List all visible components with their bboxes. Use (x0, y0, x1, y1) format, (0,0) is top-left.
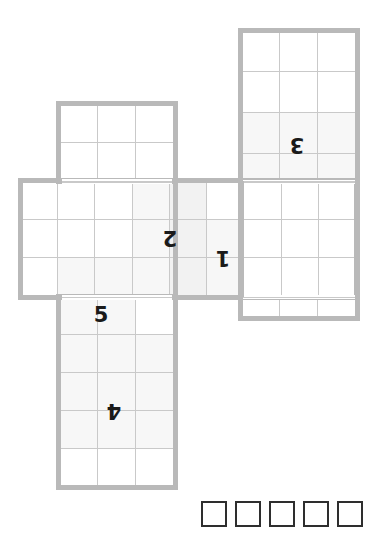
middle-band-panel-cells (21, 181, 356, 297)
grid-cell (318, 31, 357, 72)
answer-box-5[interactable] (337, 501, 363, 527)
label-3: 3 (284, 134, 310, 155)
grid-cell (21, 220, 58, 259)
grid-cell (136, 335, 175, 373)
grid-cell (280, 31, 319, 72)
grid-cell (98, 449, 137, 487)
grid-cell (21, 181, 58, 220)
grid-cell (319, 181, 356, 220)
grid-cell (58, 181, 95, 220)
answer-box-4[interactable] (303, 501, 329, 527)
label-1: 1 (210, 247, 236, 268)
grid-cell (318, 72, 357, 113)
grid-cell (136, 143, 175, 182)
grid-cell (318, 113, 357, 154)
grid-cell (136, 104, 175, 143)
grid-cell (59, 449, 98, 487)
grid-cell (241, 31, 280, 72)
grid-cell (241, 113, 280, 154)
grid-cell (98, 143, 137, 182)
grid-cell (319, 258, 356, 297)
grid-cell (21, 258, 58, 297)
grid-cell (319, 220, 356, 259)
right-panel-left-seam (238, 181, 244, 297)
middle-band-panel (21, 181, 356, 297)
grid-cell (282, 181, 319, 220)
puzzle-canvas: 1 2 3 4 5 (0, 0, 380, 553)
grid-cell (59, 373, 98, 411)
grid-cell (95, 258, 132, 297)
grid-cell (136, 411, 175, 449)
answer-box-1[interactable] (201, 501, 227, 527)
label-4: 4 (101, 400, 127, 421)
grid-cell (95, 220, 132, 259)
grid-cell (133, 258, 170, 297)
junction-line-upper-left (62, 181, 172, 183)
answer-box-2[interactable] (235, 501, 261, 527)
label-2: 2 (157, 227, 183, 248)
bottom-left-panel-cells (59, 297, 175, 487)
answer-box-3[interactable] (269, 501, 295, 527)
grid-cell (282, 220, 319, 259)
answer-boxes (201, 501, 363, 527)
grid-cell (59, 335, 98, 373)
grid-cell (98, 335, 137, 373)
bottom-left-panel (59, 297, 175, 487)
grid-cell (280, 72, 319, 113)
grid-cell (244, 181, 281, 220)
junction-line-right-bottom (243, 297, 355, 299)
grid-cell (59, 143, 98, 182)
grid-cell (58, 258, 95, 297)
grid-cell (59, 411, 98, 449)
junction-line-bottom-left (62, 297, 172, 299)
upper-left-panel (59, 104, 175, 181)
label-5: 5 (88, 305, 114, 326)
junction-line-right-top (243, 181, 355, 183)
grid-cell (282, 258, 319, 297)
grid-cell (59, 104, 98, 143)
grid-cell (244, 220, 281, 259)
upper-left-panel-cells (59, 104, 175, 181)
grid-cell (136, 373, 175, 411)
grid-cell (136, 297, 175, 335)
grid-cell (58, 220, 95, 259)
grid-cell (95, 181, 132, 220)
grid-cell (98, 104, 137, 143)
grid-cell (133, 181, 170, 220)
grid-cell (244, 258, 281, 297)
grid-cell (136, 449, 175, 487)
grid-cell (241, 72, 280, 113)
